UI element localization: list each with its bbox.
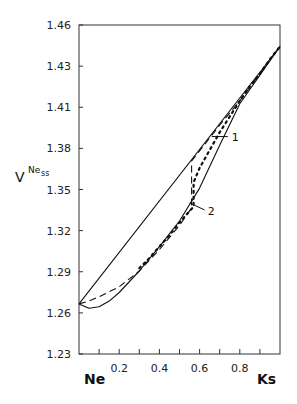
series-group — [79, 47, 280, 309]
x-axis-left-label: Ne — [84, 371, 105, 387]
y-tick-label: 1.23 — [47, 348, 72, 361]
series-linear-ideal — [79, 47, 280, 304]
x-tick-label: 0.2 — [110, 362, 128, 375]
line-chart: 0.20.40.60.81.461.431.411.381.351.321.29… — [0, 0, 297, 404]
y-tick-label: 1.46 — [47, 19, 72, 32]
curve-label-1: 1 — [232, 131, 239, 144]
y-tick-label: 1.32 — [47, 225, 72, 238]
curve-label-2: 2 — [208, 205, 215, 218]
y-tick-label: 1.41 — [47, 101, 72, 114]
y-tick-label: 1.38 — [47, 142, 72, 155]
y-axis-label-subscript: ss — [41, 169, 49, 178]
x-tick-label: 0.8 — [231, 362, 249, 375]
y-tick-label: 1.26 — [47, 307, 72, 320]
y-tick-label: 1.43 — [47, 60, 72, 73]
x-tick-label: 0.6 — [191, 362, 209, 375]
y-axis-label: V — [15, 169, 25, 185]
series-2 — [139, 47, 280, 269]
y-tick-label: 1.35 — [47, 184, 72, 197]
axes — [79, 25, 280, 354]
plot-frame — [79, 25, 280, 354]
chart-container: 0.20.40.60.81.461.431.411.381.351.321.29… — [0, 0, 297, 404]
x-tick-label: 0.4 — [151, 362, 169, 375]
y-axis-label-superscript: Ne — [28, 165, 41, 175]
x-axis-right-label: Ks — [257, 371, 276, 387]
y-tick-label: 1.29 — [47, 266, 72, 279]
